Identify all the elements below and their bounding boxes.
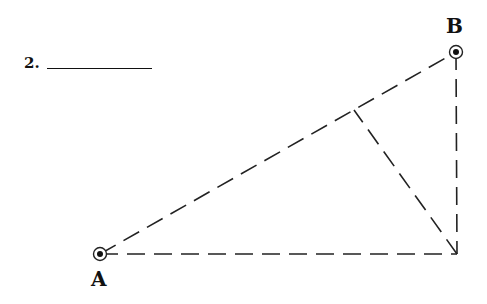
point-b-dot-icon xyxy=(453,49,459,55)
segment-cd xyxy=(354,110,457,254)
point-label-b: B xyxy=(446,14,463,38)
point-label-a: A xyxy=(91,267,107,291)
point-a-dot-icon xyxy=(97,251,103,257)
segment-ab xyxy=(100,52,456,254)
triangle-diagram xyxy=(0,0,487,304)
segment-bc xyxy=(456,52,457,254)
dashed-segments xyxy=(100,52,457,254)
